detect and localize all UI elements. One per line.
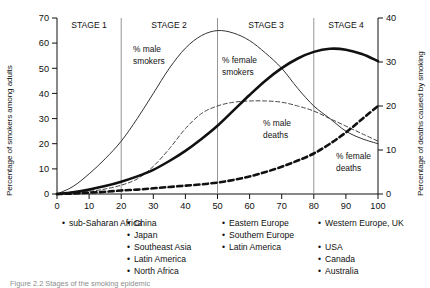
country-bullet: • [318, 242, 321, 252]
left-tick-label: 70 [39, 13, 49, 23]
right-tick-label: 30 [386, 57, 396, 67]
country-bullet: • [127, 242, 130, 252]
x-tick-label: 60 [244, 201, 254, 211]
right-tick-label: 20 [386, 101, 396, 111]
stage-label-4: STAGE 4 [328, 20, 364, 30]
male-deaths-label-line2: deaths [263, 130, 288, 140]
country-label: North Africa [134, 266, 179, 276]
right-axis-title: Percentage of deaths caused by smoking [416, 51, 425, 196]
country-bullet: • [318, 218, 321, 228]
x-tick-label: 70 [277, 201, 287, 211]
country-label: Australia [325, 266, 359, 276]
female-deaths-label-line1: % female [336, 151, 371, 161]
country-bullet: • [318, 254, 321, 264]
x-tick-label: 10 [84, 201, 94, 211]
figure-caption: Figure 2.2 Stages of the smoking epidemi… [10, 279, 150, 288]
female-deaths-label-line2: deaths [336, 163, 361, 173]
left-tick-label: 50 [39, 64, 49, 74]
x-tick-label: 30 [148, 201, 158, 211]
stage-label-3: STAGE 3 [248, 20, 284, 30]
x-tick-label: 100 [370, 201, 385, 211]
country-label: Latin America [229, 242, 281, 252]
country-label: Eastern Europe [229, 218, 289, 228]
country-bullet: • [127, 254, 130, 264]
figure-background [0, 0, 430, 288]
country-bullet: • [62, 218, 65, 228]
country-bullet: • [222, 230, 225, 240]
left-tick-label: 30 [39, 114, 49, 124]
x-tick-label: 90 [341, 201, 351, 211]
country-label: USA [325, 242, 343, 252]
country-bullet: • [222, 218, 225, 228]
left-tick-label: 60 [39, 38, 49, 48]
country-bullet: • [222, 242, 225, 252]
country-label: sub-Saharan Africa [69, 218, 142, 228]
country-label: China [134, 218, 157, 228]
x-tick-label: 40 [180, 201, 190, 211]
left-tick-label: 10 [39, 164, 49, 174]
left-tick-label: 40 [39, 89, 49, 99]
left-axis-title: Percentage of smokers among adults [5, 65, 14, 196]
country-bullet: • [318, 266, 321, 276]
country-label: Southeast Asia [134, 242, 192, 252]
country-label: Canada [325, 254, 355, 264]
country-label: Latin America [134, 254, 186, 264]
left-tick-label: 20 [39, 139, 49, 149]
x-tick-label: 0 [54, 201, 59, 211]
right-tick-label: 40 [386, 13, 396, 23]
left-tick-label: 0 [44, 189, 49, 199]
smoking-epidemic-chart: Percentage of smokers among adults Perce… [0, 0, 430, 288]
male-smokers-label-line2: smokers [133, 56, 165, 66]
female-smokers-label-line2: smokers [222, 67, 254, 77]
stage-1-countries: • sub-Saharan Africa [62, 218, 142, 228]
country-bullet: • [127, 230, 130, 240]
country-bullet: • [127, 266, 130, 276]
country-label: Japan [134, 230, 158, 240]
stage-label-1: STAGE 1 [71, 20, 107, 30]
male-deaths-label-line1: % male [263, 118, 291, 128]
female-smokers-label-line1: % female [222, 55, 257, 65]
right-tick-label: 10 [386, 145, 396, 155]
male-smokers-label-line1: % male [133, 44, 161, 54]
x-tick-label: 20 [116, 201, 126, 211]
country-label: Western Europe, UK [325, 218, 404, 228]
right-tick-label: 0 [386, 189, 391, 199]
country-bullet: • [127, 218, 130, 228]
x-tick-label: 80 [309, 201, 319, 211]
stage-label-2: STAGE 2 [151, 20, 187, 30]
country-label: Southern Europe [229, 230, 294, 240]
x-tick-label: 50 [212, 201, 222, 211]
